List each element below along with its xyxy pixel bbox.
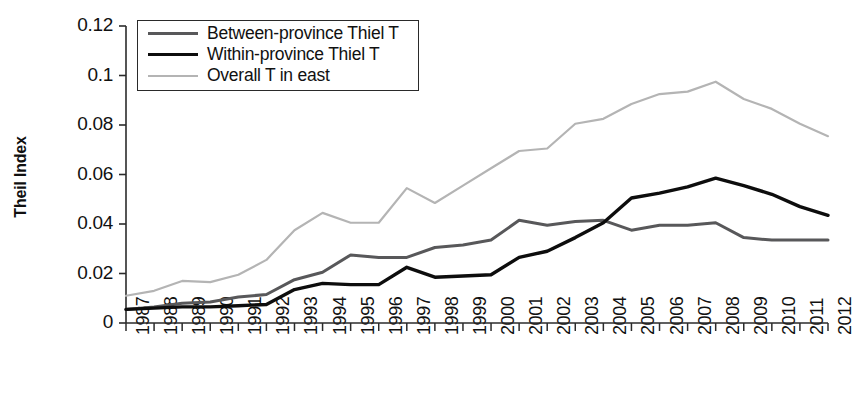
legend-label: Within-province Thiel T: [207, 44, 380, 65]
legend-swatch-icon: [148, 32, 198, 35]
data-series-layer: [126, 82, 828, 310]
chart-plot-area: [0, 0, 857, 410]
series-line: [126, 82, 828, 296]
legend-item: Overall T in east: [138, 65, 418, 86]
legend-label: Between-province Thiel T: [207, 23, 399, 44]
legend-label: Overall T in east: [207, 65, 330, 86]
legend-item: Within-province Thiel T: [138, 44, 418, 65]
series-line: [126, 220, 828, 309]
chart-legend: Between-province Thiel TWithin-province …: [137, 20, 419, 91]
theil-index-line-chart: Theil Index 00.020.040.060.080.10.12 198…: [0, 0, 857, 410]
legend-swatch-icon: [148, 75, 198, 77]
legend-swatch-icon: [148, 53, 198, 56]
legend-item: Between-province Thiel T: [138, 23, 418, 44]
